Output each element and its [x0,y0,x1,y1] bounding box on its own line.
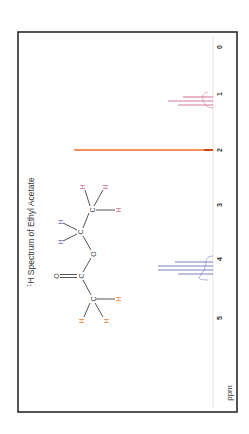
chart-title: 1H Spectrum of Ethyl Acetate [26,177,36,287]
atom-h-ethyl-3: H [115,207,122,212]
tick-label-3: 3 [216,203,223,207]
atom-h-acetyl-3: H [103,318,110,323]
chart-frame [18,32,237,412]
atom-h-ethyl-1: H [79,184,86,189]
atom-o-ester: O [90,251,97,257]
ethyl-acetate-structure: H H C H H C H O O C C H H H [53,184,122,323]
atom-h-methylene-1: H [57,219,64,224]
x-axis: 0 1 2 3 4 5 ppm [216,45,234,401]
tick-label-4: 4 [216,257,223,261]
triplet-peak-ch3 [168,92,213,108]
title-text: H Spectrum of Ethyl Acetate [26,177,36,284]
atom-c-acetyl-methyl: C [90,296,97,301]
atom-c-ethyl-methyl: C [89,207,96,212]
atom-h-methylene-2: H [57,239,64,244]
atom-c-carbonyl: C [78,273,85,278]
svg-text:1H Spectrum of Ethyl Acetate: 1H Spectrum of Ethyl Acetate [26,177,36,287]
x-axis-unit-label: ppm [225,385,234,401]
atom-h-ethyl-2: H [102,184,109,189]
tick-label-1: 1 [216,92,223,96]
atom-h-acetyl-2: H [78,318,85,323]
atom-c-methylene: C [77,229,84,234]
tick-label-2: 2 [216,148,223,152]
tick-label-5: 5 [216,316,223,320]
quartet-peak-ch2 [158,256,213,280]
atom-o-carbonyl: O [53,273,60,279]
tick-label-0: 0 [216,45,223,49]
nmr-spectrum-chart: 0 1 2 3 4 5 ppm 1H Spectrum of Ethyl Ace… [0,0,249,434]
atom-h-acetyl-1: H [115,296,122,301]
